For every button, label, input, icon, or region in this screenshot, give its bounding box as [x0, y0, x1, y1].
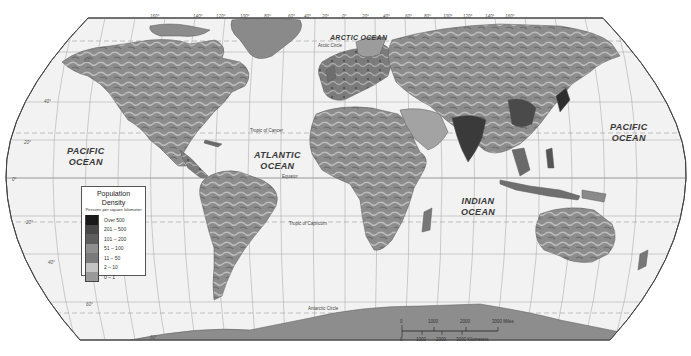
scale-miles-2000: 2000 [460, 319, 470, 324]
longitude-label: 140° [485, 14, 494, 19]
scale-km-1000: 1000 [416, 337, 426, 342]
ocean-label-line: OCEAN [254, 161, 301, 172]
ocean-label-line: INDIAN [461, 196, 495, 207]
legend-item: 11 – 50 [85, 253, 142, 263]
legend-item: 2 – 10 [85, 263, 142, 273]
arctic-ocean-label: ARCTIC OCEAN [330, 32, 387, 43]
legend-item-label: 11 – 50 [104, 255, 120, 261]
legend-swatch [85, 263, 99, 273]
tropic-of-capricorn-label: Tropic of Capricorn [289, 221, 327, 226]
longitude-label: 80° [264, 14, 271, 19]
antarctic-circle-label: Antarctic Circle [308, 306, 338, 311]
latitude-label-20n: 20° [24, 140, 31, 145]
legend-item-label: 201 – 500 [104, 226, 126, 232]
legend-item: 101 – 200 [85, 234, 142, 244]
latitude-label-40s: 40° [48, 260, 55, 265]
longitude-label: 160° [505, 14, 514, 19]
legend-item: Over 500 [85, 215, 142, 225]
legend-swatch [85, 234, 99, 244]
latitude-label-60n: 60° [84, 58, 91, 63]
latitude-label-40n: 40° [44, 99, 51, 104]
atlantic-ocean-label: ATLANTIC OCEAN [254, 150, 301, 172]
world-map [0, 0, 691, 356]
latitude-label-80s: 80° [150, 335, 157, 340]
legend-item-label: Over 500 [104, 217, 125, 223]
population-density-legend: Population Density Persons per square ki… [81, 186, 146, 276]
legend-item-label: 0 – 1 [104, 274, 115, 280]
longitude-label: 60° [405, 14, 412, 19]
pacific-ocean-east-label: PACIFIC OCEAN [610, 122, 647, 144]
legend-item-label: 51 – 100 [104, 245, 123, 251]
latitude-label-20s: 20° [26, 220, 33, 225]
longitude-label: 120° [463, 14, 472, 19]
longitude-label: 40° [304, 14, 311, 19]
scale-km-2000: 2000 [436, 337, 446, 342]
longitude-label: 0° [342, 14, 346, 19]
legend-swatch [85, 253, 99, 263]
legend-item-label: 101 – 200 [104, 236, 126, 242]
legend-item-label: 2 – 10 [104, 264, 118, 270]
tropic-of-cancer-label: Tropic of Cancer [250, 128, 283, 133]
ocean-label-line: ATLANTIC [254, 150, 301, 161]
equator-label: Equator [282, 174, 298, 179]
longitude-label: 40° [383, 14, 390, 19]
ocean-label-line: ARCTIC OCEAN [330, 32, 387, 43]
legend-item: 201 – 500 [85, 225, 142, 235]
latitude-label-eq: 0° [12, 177, 16, 182]
longitude-label: 100° [240, 14, 249, 19]
legend-swatch [85, 272, 99, 282]
latitude-label-60s: 60° [86, 302, 93, 307]
ocean-label-line: PACIFIC [67, 146, 104, 157]
indian-ocean-label: INDIAN OCEAN [461, 196, 495, 218]
longitude-label: 140° [193, 14, 202, 19]
scale-bar: 0 1000 2000 3000 Miles 0 1000 2000 3000 … [398, 318, 508, 344]
legend-swatch [85, 225, 99, 235]
longitude-label: 20° [362, 14, 369, 19]
longitude-label: 60° [288, 14, 295, 19]
scale-miles-3000: 3000 Miles [492, 319, 514, 324]
scale-miles-0: 0 [400, 319, 403, 324]
ocean-label-line: OCEAN [610, 133, 647, 144]
scale-km-0: 0 [400, 337, 403, 342]
pacific-ocean-west-label: PACIFIC OCEAN [67, 146, 104, 168]
legend-subtitle: Persons per square kilometer [85, 207, 142, 213]
legend-item: 51 – 100 [85, 244, 142, 254]
longitude-label: 120° [216, 14, 225, 19]
longitude-label: 160° [150, 14, 159, 19]
legend-swatch [85, 215, 99, 225]
arctic-circle-label: Arctic Circle [318, 43, 342, 48]
ocean-label-line: PACIFIC [610, 122, 647, 133]
ocean-label-line: OCEAN [67, 157, 104, 168]
longitude-label: 80° [424, 14, 431, 19]
legend-title: Population Density [85, 189, 142, 207]
longitude-label: 100° [443, 14, 452, 19]
legend-item: 0 – 1 [85, 272, 142, 282]
longitude-label: 20° [322, 14, 329, 19]
scale-km-3000: 3000 Kilometers [456, 337, 489, 342]
scale-miles-1000: 1000 [428, 319, 438, 324]
ocean-label-line: OCEAN [461, 207, 495, 218]
legend-swatch [85, 244, 99, 254]
